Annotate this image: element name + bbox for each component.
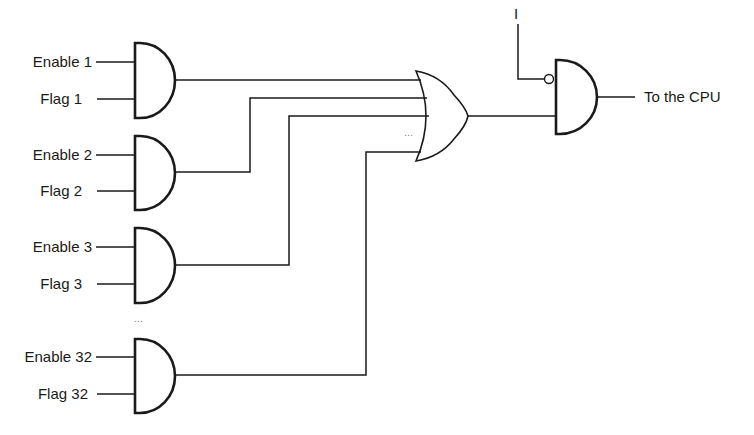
label-flag-1: Flag 1 (40, 91, 82, 107)
ellipsis-or-inputs: ... (404, 124, 413, 140)
label-flag-32: Flag 32 (38, 386, 88, 402)
and-gate-final (556, 60, 597, 134)
circuit-diagram (0, 0, 754, 435)
label-output: To the CPU (644, 89, 721, 105)
and-gate-3 (96, 228, 175, 303)
label-enable-3: Enable 3 (33, 239, 92, 255)
and-gate-1 (96, 43, 175, 118)
label-flag-2: Flag 2 (40, 183, 82, 199)
label-enable-1: Enable 1 (33, 54, 92, 70)
ellipsis-gates: ... (134, 310, 143, 326)
label-flag-3: Flag 3 (40, 276, 82, 292)
and-gate-2 (96, 136, 175, 210)
and-gate-32 (96, 339, 175, 413)
label-inhibit: I (514, 6, 518, 22)
inverter-bubble (545, 75, 554, 84)
label-enable-2: Enable 2 (33, 147, 92, 163)
label-enable-32: Enable 32 (24, 349, 92, 365)
